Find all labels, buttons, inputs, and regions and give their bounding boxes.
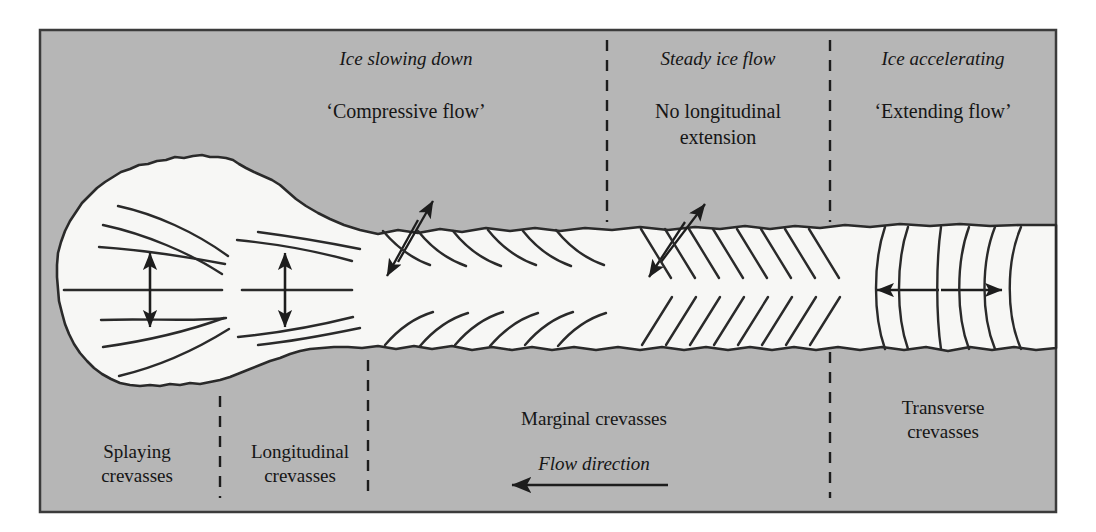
- top-label-regime-extending: ‘Extending flow’: [848, 99, 1038, 125]
- top-label-state-accelerating: Ice accelerating: [848, 47, 1038, 71]
- bottom-label-splaying-crevasses: Splaying crevasses: [62, 440, 212, 489]
- bottom-label-longitudinal-crevasses: Longitudinal crevasses: [225, 440, 375, 489]
- flow-direction-label: Flow direction: [474, 452, 714, 476]
- top-label-regime-compressive: ‘Compressive flow’: [286, 99, 526, 125]
- top-label-state-steady: Steady ice flow: [618, 47, 818, 71]
- top-label-state-compressive: Ice slowing down: [286, 47, 526, 71]
- bottom-label-marginal-crevasses: Marginal crevasses: [454, 407, 734, 431]
- bottom-label-transverse-crevasses: Transverse crevasses: [858, 396, 1028, 445]
- glacier-crevasse-figure: Ice slowing down Steady ice flow Ice acc…: [0, 0, 1096, 532]
- top-label-regime-steady: No longitudinal extension: [618, 99, 818, 150]
